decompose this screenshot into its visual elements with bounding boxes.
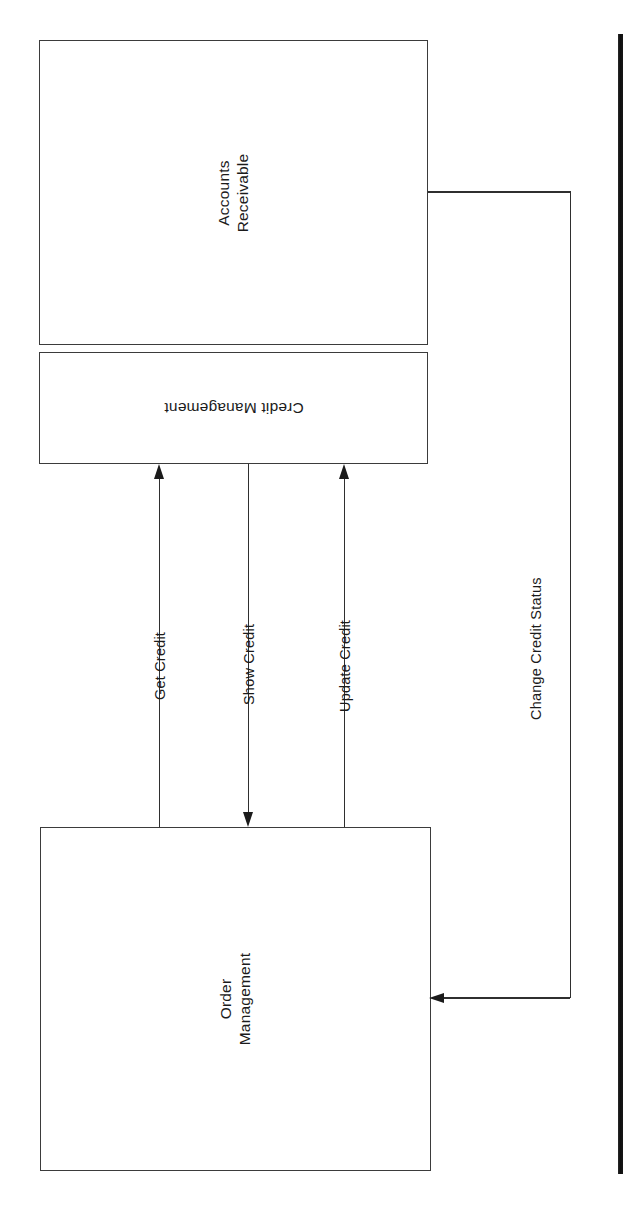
node-credit-management[interactable]: Credit Management — [39, 352, 428, 464]
node-accounts-receivable-label: Accounts Receivable — [215, 153, 253, 232]
edge-show-credit-arrowhead — [243, 812, 253, 827]
edge-change-credit-status-segment-top[interactable] — [428, 191, 571, 193]
edge-change-credit-status-arrowhead — [429, 993, 444, 1003]
edge-change-credit-status-segment-bottom[interactable] — [444, 997, 570, 999]
edge-update-credit-label: Update Credit — [337, 620, 353, 712]
edge-change-credit-status-segment-right[interactable] — [570, 191, 572, 998]
node-order-management-label: Order Management — [217, 953, 255, 1045]
scan-page-edge-artifact — [618, 34, 623, 1174]
diagram-canvas: Accounts Receivable Credit Management Or… — [0, 0, 639, 1210]
edge-show-credit-label: Show Credit — [241, 624, 257, 705]
edge-update-credit-arrowhead — [339, 464, 349, 479]
node-credit-management-label: Credit Management — [164, 399, 304, 418]
edge-get-credit-label: Get Credit — [152, 632, 168, 700]
node-order-management[interactable]: Order Management — [40, 827, 431, 1171]
edge-change-credit-status-label: Change Credit Status — [528, 577, 544, 720]
node-accounts-receivable[interactable]: Accounts Receivable — [39, 40, 428, 345]
edge-get-credit-arrowhead — [154, 464, 164, 479]
